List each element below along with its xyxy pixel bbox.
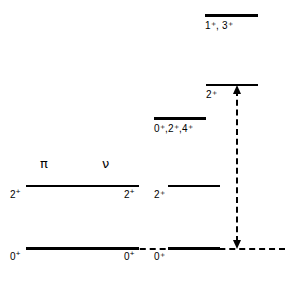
ground-state-reference-dashed-line [100,248,285,250]
transition-target-line [206,84,258,86]
transition-arrowhead-down-icon [233,240,241,249]
multiplet-024-label: 0⁺,2⁺,4⁺ [154,124,193,134]
multiplet-13-line [205,14,258,17]
multiplet-024-line [154,117,206,120]
proton-level-2plus-label: 2+ [10,190,21,200]
excitation-transition-dashed-line [236,90,238,242]
coupled-first-excited-label: 2⁺ [154,190,165,200]
neutron-column-header: ν [102,157,109,170]
transition-arrowhead-up-icon [233,85,241,94]
transition-target-label: 2⁺ [206,90,217,100]
proton-level-0plus-label: 0+ [10,252,21,262]
proton-column-header: π [40,157,48,170]
multiplet-13-label: 1⁺, 3⁺ [205,21,233,31]
coupled-ground-state-label: 0⁺ [154,252,165,262]
neutron-level-2plus-label: 2+ [124,190,135,200]
coupled-first-excited-line [168,185,220,187]
energy-level-diagram: 2+ 0+ π 2+ 0+ ν 0⁺ 2⁺ 0⁺,2⁺,4⁺ 2⁺ 1⁺, 3⁺ [0,0,304,281]
neutron-level-0plus-label: 0+ [124,252,135,262]
